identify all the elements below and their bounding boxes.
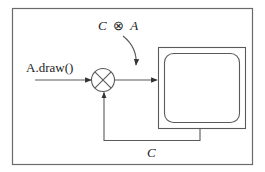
circle-cross-icon [92, 69, 115, 92]
composite-left: C [98, 18, 107, 33]
feedback-arrow [104, 93, 200, 141]
annotation-arrow [123, 36, 136, 65]
monitor-icon [159, 48, 246, 129]
input-label: A.draw() [26, 60, 73, 75]
feedback-label: C [147, 145, 156, 160]
composite-right: A [129, 18, 138, 33]
composite-label: C ⊗ A [98, 18, 138, 33]
feedback-diagram: A.draw() C ⊗ A C [0, 0, 265, 172]
composite-operator: ⊗ [113, 18, 124, 33]
